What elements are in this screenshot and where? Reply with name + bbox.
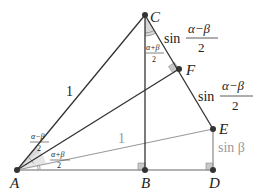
label-AE-length: 1: [118, 131, 125, 146]
label-A: A: [9, 175, 20, 191]
label-AC-length: 1: [66, 84, 73, 99]
label-CF-sin: sin: [164, 31, 180, 46]
label-CF-num: α−β: [188, 21, 211, 36]
point-A: [14, 167, 20, 173]
point-C: [142, 12, 148, 18]
label-angle-A-upper-den: 2: [37, 144, 41, 153]
label-ED-sin-beta: sin β: [218, 140, 245, 155]
point-E: [210, 126, 216, 132]
geometry-diagram: A B C D E F 1 1 sin α−β 2 sin α−β 2 sin …: [0, 0, 258, 192]
label-FE-sin: sin: [198, 89, 214, 104]
label-angle-A-upper-num: α−β: [31, 132, 45, 141]
label-B: B: [141, 175, 150, 191]
point-D: [210, 167, 216, 173]
label-E: E: [218, 121, 228, 137]
label-F: F: [185, 62, 196, 78]
point-B: [142, 167, 148, 173]
point-F: [176, 66, 182, 72]
label-angle-C-num: α+β: [146, 43, 160, 52]
label-D: D: [208, 175, 220, 191]
diagram-canvas: A B C D E F 1 1 sin α−β 2 sin α−β 2 sin …: [0, 0, 258, 192]
label-angle-A-lower-num: α+β: [51, 150, 65, 159]
label-angle-C-den: 2: [152, 55, 156, 64]
label-angle-A-lower-den: 2: [57, 161, 61, 170]
label-FE-den: 2: [232, 98, 239, 113]
label-CF-den: 2: [198, 40, 205, 55]
label-FE-num: α−β: [222, 78, 245, 93]
label-C: C: [150, 9, 161, 25]
segment-AF: [17, 69, 179, 170]
